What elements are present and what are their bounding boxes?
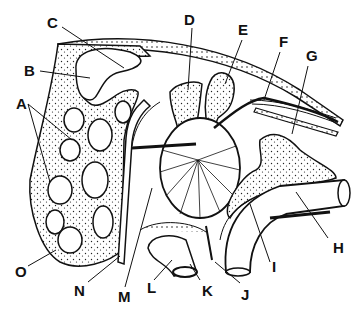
label-n: N — [74, 283, 85, 298]
label-i: I — [272, 259, 276, 274]
label-o: O — [15, 264, 27, 279]
label-m: M — [118, 289, 131, 304]
mastoid-bone — [30, 44, 150, 266]
label-f: F — [279, 34, 288, 49]
lower-tube — [140, 223, 212, 277]
label-e: E — [238, 22, 248, 37]
tympanic-membrane — [160, 118, 240, 218]
label-c: C — [47, 15, 58, 30]
anatomy-diagram: A B C D E F G H I J K L M N O — [0, 0, 362, 317]
label-a: A — [16, 96, 27, 111]
label-h: H — [333, 240, 344, 255]
label-j: J — [241, 287, 249, 302]
label-l: L — [147, 280, 156, 295]
label-b: B — [24, 63, 35, 78]
label-d: D — [184, 12, 195, 27]
label-k: K — [202, 283, 213, 298]
label-g: G — [306, 48, 318, 63]
